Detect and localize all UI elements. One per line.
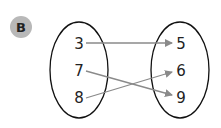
arrow-7-to-9 (86, 71, 172, 95)
domain-value: 8 (74, 89, 84, 107)
domain-value: 3 (74, 35, 84, 53)
arrow-8-to-6 (86, 72, 172, 98)
range-value: 6 (176, 62, 186, 80)
badge: B (10, 16, 32, 38)
badge-label: B (16, 20, 26, 35)
domain-value: 7 (74, 62, 84, 80)
mapping-diagram: B 3 7 8 5 6 9 (0, 0, 221, 128)
range-value: 9 (176, 89, 186, 107)
range-value: 5 (176, 35, 186, 53)
